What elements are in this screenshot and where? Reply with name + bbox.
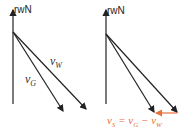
vector-diagram: rwN vW vG rwN vS = vG − vW <box>0 0 190 136</box>
left-vw-label: vW <box>50 54 62 70</box>
left-axis-label: rwN <box>14 4 32 15</box>
right-diagram <box>106 10 177 113</box>
difference-formula: vS = vG − vW <box>107 114 162 129</box>
right-axis-label: rwN <box>107 5 125 16</box>
left-vg-label: vG <box>25 72 36 88</box>
